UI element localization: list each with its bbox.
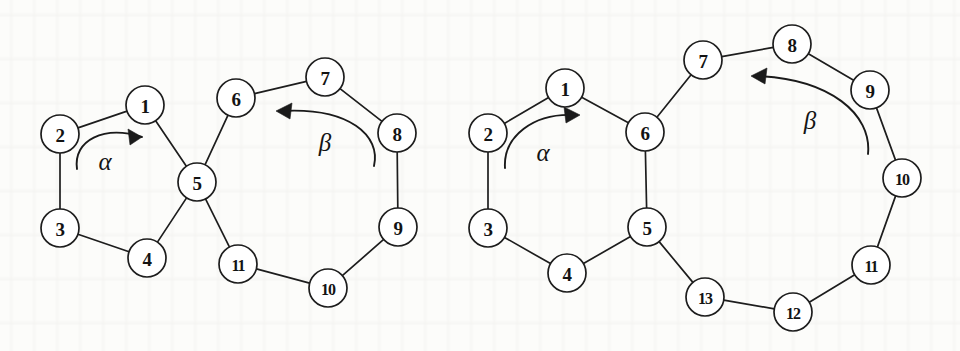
node-label: 3 [483,219,492,240]
graph-edge [78,111,127,128]
node-label: 12 [786,305,801,322]
node-label: 9 [393,218,402,239]
arrow-head-icon [564,107,580,123]
node-label: 6 [640,123,649,144]
rotation-label-left-beta: β [318,129,332,156]
rotation-label-right-beta: β [803,107,817,134]
node-label: 4 [142,249,152,270]
graph-edge [645,151,646,208]
graph-edge [256,269,309,283]
node-label: 8 [392,124,401,145]
graph-edge [722,47,774,56]
node-label: 6 [231,89,240,110]
graph-node[interactable]: 10 [883,159,921,197]
node-label: 7 [698,51,708,72]
node-label: 5 [192,173,201,194]
graph-node[interactable]: 5 [628,208,666,246]
graph-node[interactable]: 4 [128,239,166,277]
graph-edge [583,236,630,263]
graph-edge [340,89,382,122]
graph-node[interactable]: 11 [219,245,257,283]
node-label: 1 [560,79,569,100]
node-label: 9 [865,81,874,102]
node-label: 4 [562,264,572,285]
graph-node[interactable]: 6 [217,79,255,117]
graph-node[interactable]: 7 [306,58,344,96]
rotation-label-left-alpha: α [98,148,112,175]
graph-node[interactable]: 3 [41,209,79,247]
graph-node[interactable]: 11 [852,246,890,284]
figure-canvas: αβαβ 123456789101112345678910111213 [0,0,960,351]
graph-drawing: αβαβ 123456789101112345678910111213 [0,0,960,351]
graph-edge [582,97,629,123]
graph-edge [724,300,775,309]
nodes-group: 123456789101112345678910111213 [41,25,921,331]
graph-node[interactable]: 2 [469,114,507,152]
node-label: 11 [864,258,878,275]
graph-node[interactable]: 5 [178,163,216,201]
node-label: 5 [642,218,651,239]
graph-edge [156,121,187,167]
graph-node[interactable]: 7 [684,41,722,79]
graph-edge [876,108,895,160]
graph-edge [659,242,693,283]
graph-node[interactable]: 4 [548,254,586,292]
graph-edge [505,237,551,263]
graph-edge [808,54,853,81]
node-label: 2 [483,124,492,145]
graph-edge [205,115,228,165]
arrow-head-icon [276,103,292,119]
graph-edge [157,198,186,242]
graph-node[interactable]: 10 [309,269,347,307]
node-label: 7 [320,68,330,89]
graph-edge [342,239,383,275]
node-label: 11 [231,257,245,274]
node-label: 3 [55,219,64,240]
graph-edge [397,152,398,208]
arrow-head-icon [128,129,142,145]
graph-edge [78,234,129,252]
graph-node[interactable]: 12 [774,293,812,331]
graph-node[interactable]: 8 [773,25,811,63]
graph-edge [206,199,230,247]
graph-node[interactable]: 2 [41,115,79,153]
graph-node[interactable]: 8 [378,114,416,152]
node-label: 8 [787,35,796,56]
graph-edge [657,75,691,117]
node-label: 2 [55,125,64,146]
node-label: 13 [698,290,713,307]
node-label: 10 [321,281,336,298]
node-label: 10 [895,171,910,188]
graph-node[interactable]: 1 [126,86,164,124]
graph-edge [809,275,854,302]
graph-node[interactable]: 9 [851,71,889,109]
graph-node[interactable]: 13 [686,278,724,316]
graph-node[interactable]: 1 [546,69,584,107]
graph-node[interactable]: 3 [469,209,507,247]
node-label: 1 [140,96,149,117]
arrow-head-icon [751,68,767,84]
graph-edge [877,196,895,247]
graph-edge [254,81,306,93]
rotation-label-right-alpha: α [536,139,550,166]
graph-node[interactable]: 6 [626,113,664,151]
graph-node[interactable]: 9 [379,208,417,246]
